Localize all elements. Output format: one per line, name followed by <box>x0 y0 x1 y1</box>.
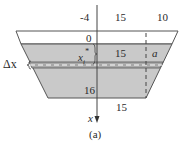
figure-caption: (a) <box>89 129 101 140</box>
label-bottom-half-width: 15 <box>116 102 127 113</box>
strip-depth-subscript: i <box>83 58 85 66</box>
label-top-left-offset: -4 <box>80 12 89 23</box>
label-strip-depth: xi* <box>78 48 89 68</box>
label-surface-depth: 0 <box>86 33 92 44</box>
label-top-half-width: 15 <box>115 12 126 23</box>
label-top-right-extension: 10 <box>157 12 168 23</box>
trapezoid-trough-diagram: -4 15 10 0 xi* 15 a Δx 16 15 x (a) <box>0 0 187 150</box>
label-x-axis: x <box>88 113 93 124</box>
label-strip-thickness: Δx <box>3 59 17 70</box>
strip-depth-superscript: * <box>85 47 89 56</box>
label-bottom-depth: 16 <box>84 85 95 96</box>
label-strip-offset-a: a <box>152 48 158 59</box>
label-strip-width: 15 <box>115 48 126 59</box>
x-axis-arrowhead <box>95 116 100 123</box>
